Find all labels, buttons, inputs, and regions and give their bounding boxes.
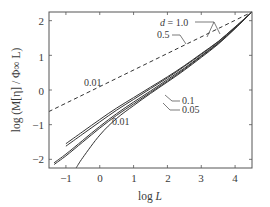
leader-0.5: [172, 35, 186, 44]
x-tick-label: −1: [60, 172, 72, 184]
x-axis-title: log L: [138, 190, 162, 203]
leader-0.05: [163, 103, 180, 110]
leader-d-1.0: [195, 22, 220, 34]
annotation-0.01: 0.01: [112, 116, 130, 127]
curves: [49, 12, 252, 168]
annotation-d-1.0: d = 1.0: [160, 17, 188, 28]
x-tick-label: 3: [198, 172, 204, 184]
y-tick-label: 0: [39, 85, 45, 97]
y-axis-title: log (M[η] / Φ∞ L): [10, 48, 23, 133]
x-tick-label: 2: [165, 172, 171, 184]
y-tick-label: −1: [32, 119, 44, 131]
chart: −1 0 1 2 3 4 2 1 0 −1 −2 log L log (M[η]…: [0, 0, 270, 207]
annotation-0.01-dashed: 0.01: [84, 77, 102, 88]
leader-d-1.0b: [207, 22, 214, 37]
annotation-0.05: 0.05: [182, 104, 200, 115]
x-tick-label: 4: [232, 172, 238, 184]
annotation-d-value: = 1.0: [165, 17, 188, 28]
annotation-0.5: 0.5: [157, 29, 170, 40]
x-tick-label: 1: [131, 172, 137, 184]
y-tick-label: −2: [32, 153, 44, 165]
leader-0.1: [165, 95, 180, 101]
series-line: [54, 12, 252, 165]
y-tick-label: 1: [39, 51, 45, 63]
x-axis-title-var: L: [155, 190, 162, 202]
x-axis-title-prefix: log: [138, 190, 156, 203]
series-line: [49, 12, 252, 112]
y-tick-label: 2: [39, 15, 45, 27]
x-tick-label: 0: [97, 172, 103, 184]
